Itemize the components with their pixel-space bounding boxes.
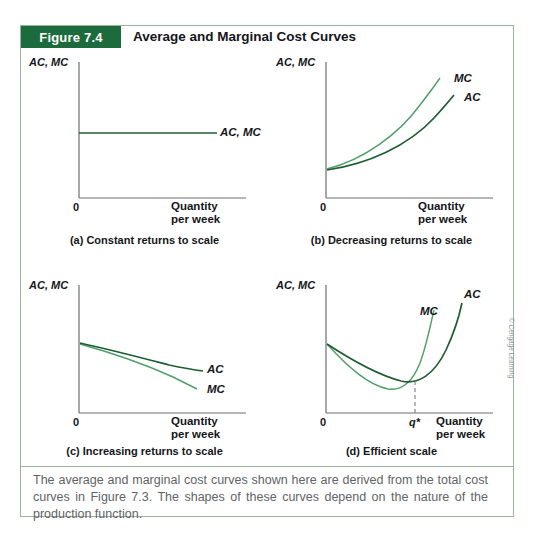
panel-b-decreasing-returns: AC, MC MC AC 0 Quantity per week (b) Dec… [268, 50, 515, 255]
panel-c-x-axis-title-line2: per week [171, 428, 220, 440]
panel-c-origin-label: 0 [73, 416, 79, 428]
figure-header: Figure 7.4 Average and Marginal Cost Cur… [21, 26, 513, 48]
panel-d-qstar-label: q* [409, 416, 420, 428]
panel-a-y-axis-label: AC, MC [29, 56, 68, 68]
panel-a-x-axis-title-line2: per week [171, 213, 220, 225]
figure-caption: The average and marginal cost curves sho… [33, 472, 488, 523]
panel-d-caption: (d) Efficient scale [268, 445, 515, 457]
panel-d-origin-label: 0 [320, 416, 326, 428]
curve-ac [327, 95, 454, 170]
curve-mc [327, 78, 440, 169]
panel-d-y-axis-label: AC, MC [276, 279, 315, 291]
curve-ac [327, 303, 462, 382]
curve-ac [80, 343, 203, 371]
panel-a-origin-label: 0 [73, 201, 79, 213]
panel-c-y-axis-label: AC, MC [29, 279, 68, 291]
panel-a-caption: (a) Constant returns to scale [21, 234, 268, 246]
panel-d-x-axis-title-line1: Quantity [436, 415, 483, 427]
panel-b-curve-label-ac: AC [464, 91, 481, 103]
panel-b-curve-label-mc: MC [454, 72, 472, 84]
caption-divider [21, 466, 513, 467]
panel-b-caption: (b) Decreasing returns to scale [268, 234, 515, 246]
panel-b-origin-label: 0 [320, 201, 326, 213]
panel-c-curve-label-ac: AC [207, 363, 224, 375]
panel-a-curve-label-ac-mc: AC, MC [220, 126, 261, 138]
panel-a-plot [21, 50, 268, 230]
panel-b-x-axis-title-line1: Quantity [418, 200, 465, 212]
panel-a-x-axis-title-line1: Quantity [171, 200, 218, 212]
panel-d-curve-label-ac: AC [464, 288, 481, 300]
panel-d-efficient-scale: AC, MC AC MC 0 q* Quantity per week (d) … [268, 255, 515, 460]
panel-b-x-axis-title-line2: per week [418, 213, 467, 225]
figure-title: Average and Marginal Cost Curves [133, 26, 356, 48]
panel-c-increasing-returns: AC, MC AC MC 0 Quantity per week (c) Inc… [21, 255, 268, 460]
copyright-credit: © Cengage Learning [508, 318, 515, 378]
panel-b-y-axis-label: AC, MC [276, 56, 315, 68]
figure-number-badge: Figure 7.4 [21, 26, 121, 48]
panel-c-curve-label-mc: MC [207, 383, 225, 395]
panel-c-caption: (c) Increasing returns to scale [21, 445, 268, 457]
curve-mc [327, 310, 434, 389]
panel-b-plot [268, 50, 515, 230]
panel-a-constant-returns: AC, MC AC, MC 0 Quantity per week (a) Co… [21, 50, 268, 255]
panel-d-x-axis-title-line2: per week [436, 428, 485, 440]
panel-d-curve-label-mc: MC [420, 305, 438, 317]
figure-container: Figure 7.4 Average and Marginal Cost Cur… [20, 25, 514, 517]
panel-c-x-axis-title-line1: Quantity [171, 415, 218, 427]
